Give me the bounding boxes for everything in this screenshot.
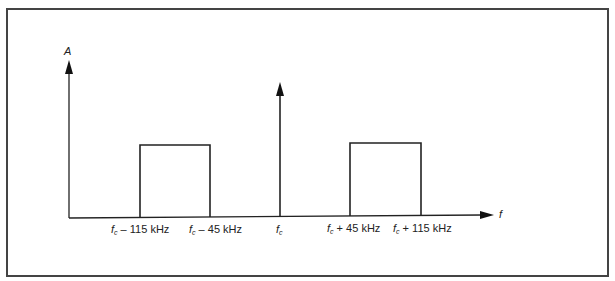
- x-axis-arrow-icon: [480, 211, 494, 219]
- carrier-spike: [276, 82, 284, 217]
- upper-sideband-band: [350, 143, 421, 216]
- tick-label-fc-plus-45: fc + 45 kHz: [327, 222, 380, 235]
- y-axis-label: A: [64, 45, 71, 57]
- tick-label-fc: fc: [276, 223, 283, 236]
- spectrum-diagram: [0, 0, 615, 281]
- lower-sideband-band: [140, 145, 210, 218]
- tick-label-fc-plus-115: fc + 115 kHz: [393, 222, 452, 235]
- y-axis: [65, 60, 73, 218]
- x-axis-label: f: [499, 208, 502, 220]
- x-axis: [69, 211, 494, 219]
- y-axis-arrow-icon: [65, 60, 73, 74]
- carrier-arrow-icon: [276, 82, 284, 96]
- tick-label-fc-minus-115: fc – 115 kHz: [111, 223, 169, 236]
- tick-label-fc-minus-45: fc – 45 kHz: [189, 223, 242, 236]
